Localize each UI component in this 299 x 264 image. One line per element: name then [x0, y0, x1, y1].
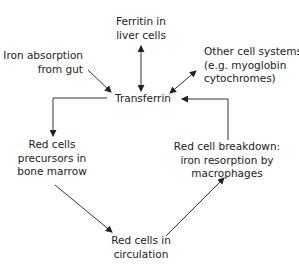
node-transferrin-label: Transferrin [115, 92, 171, 106]
node-red-cell-breakdown: Red cell breakdown: iron resorption by m… [174, 140, 280, 181]
node-precursors-line-2: precursors in [17, 152, 86, 166]
node-precursors-line-3: bone marrow [17, 165, 86, 179]
node-ferritin-line-2: liver cells [116, 29, 166, 43]
node-breakdown-line-3: macrophages [174, 167, 280, 181]
node-other-line-2: (e.g. myoglobin [204, 59, 299, 73]
node-ferritin: Ferritin in liver cells [116, 15, 166, 42]
node-precursors-line-1: Red cells [17, 138, 86, 152]
node-absorption-line-2: from gut [3, 63, 83, 77]
edge-circulation-breakdown [166, 178, 224, 236]
node-breakdown-line-1: Red cell breakdown: [174, 140, 280, 154]
edge-other-transferrin [170, 71, 196, 93]
node-red-cells-circulation: Red cells in circulation [111, 234, 171, 261]
node-absorption-line-1: Iron absorption [3, 49, 83, 63]
node-absorption: Iron absorption from gut [3, 49, 83, 76]
node-other-line-1: Other cell systems [204, 45, 299, 59]
node-other-cell-systems: Other cell systems (e.g. myoglobin cytoc… [204, 45, 299, 86]
node-other-line-3: cytochromes) [204, 72, 299, 86]
edge-absorption-transferrin [88, 70, 111, 92]
node-breakdown-line-2: iron resorption by [174, 154, 280, 168]
node-circulation-line-2: circulation [111, 248, 171, 262]
node-ferritin-line-1: Ferritin in [116, 15, 166, 29]
edge-breakdown-transferrin [182, 99, 228, 140]
edge-transferrin-precursors [53, 98, 107, 136]
node-transferrin: Transferrin [115, 92, 171, 106]
edge-precursors-circulation [55, 185, 112, 232]
node-circulation-line-1: Red cells in [111, 234, 171, 248]
node-red-cell-precursors: Red cells precursors in bone marrow [17, 138, 86, 179]
